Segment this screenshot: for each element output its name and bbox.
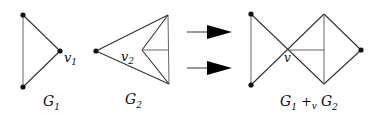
res-vertex-label: v — [284, 51, 291, 65]
arrow-bottom — [187, 61, 232, 75]
g2-edge-left-top — [96, 15, 168, 51]
res-vertex-top-left — [248, 11, 253, 16]
res-edge-right-bottom — [324, 50, 361, 84]
g2-vertex-left — [93, 48, 98, 53]
g2-label: G2 — [125, 91, 142, 110]
g1-edge-bottom — [23, 51, 60, 87]
arrow-top — [187, 25, 232, 39]
result-label: G1+vG2 — [280, 93, 338, 112]
res-vertex-right — [358, 47, 363, 52]
res-edge-right-top — [324, 14, 361, 50]
graph-g1: v1 G1 — [20, 12, 77, 112]
g1-vertex-top — [20, 12, 25, 17]
graph-g2: v2 G2 — [93, 15, 169, 110]
g1-vertex-v1 — [57, 48, 62, 53]
g1-vertex-label: v1 — [64, 50, 77, 67]
g2-vertex-label: v2 — [121, 49, 134, 66]
g1-label: G1 — [43, 93, 60, 112]
graph-result: v G1+vG2 — [248, 11, 363, 112]
g1-vertex-bottom — [20, 84, 25, 89]
res-vertex-bottom-left — [248, 82, 253, 87]
g2-edge-v2-top — [142, 15, 168, 50]
vertex-identification-diagram: v1 G1 v2 G2 v G1+vG2 — [0, 0, 384, 125]
g2-edge-v2-bottom — [142, 50, 169, 84]
g2-edge-right — [168, 15, 169, 84]
arrow-bottom-head-icon — [207, 61, 232, 75]
g1-edge-top — [23, 15, 60, 51]
arrow-top-head-icon — [207, 25, 232, 39]
